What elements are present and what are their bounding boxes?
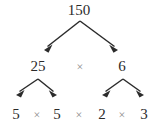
branch-line xyxy=(48,21,81,47)
branch-line xyxy=(123,79,141,92)
branch-6-to-2 xyxy=(102,79,123,98)
node-root-150: 150 xyxy=(68,3,91,18)
branch-line xyxy=(20,79,39,92)
node-prime-5-second: 5 xyxy=(53,107,61,122)
branch-line xyxy=(38,79,54,92)
node-prime-5-first: 5 xyxy=(12,107,20,122)
branch-25-to-right-5 xyxy=(38,79,57,98)
operator-multiply-level3-b: × xyxy=(76,109,83,121)
branch-6-to-3 xyxy=(123,79,144,98)
branch-25-to-left-5 xyxy=(16,79,38,98)
operator-multiply-level3-c: × xyxy=(119,109,126,121)
node-factor-25: 25 xyxy=(31,59,46,74)
operator-multiply-level2: × xyxy=(77,61,84,73)
branch-line xyxy=(80,21,115,47)
branch-root-to-6 xyxy=(80,21,118,53)
branch-root-to-25 xyxy=(44,21,80,53)
operator-multiply-level3-a: × xyxy=(34,109,41,121)
node-prime-3: 3 xyxy=(140,107,148,122)
factor-tree-diagram: 150 25 × 6 5 × 5 × 2 × 3 xyxy=(0,0,158,128)
node-prime-2: 2 xyxy=(98,107,106,122)
branch-line xyxy=(106,79,124,92)
node-factor-6: 6 xyxy=(118,59,126,74)
